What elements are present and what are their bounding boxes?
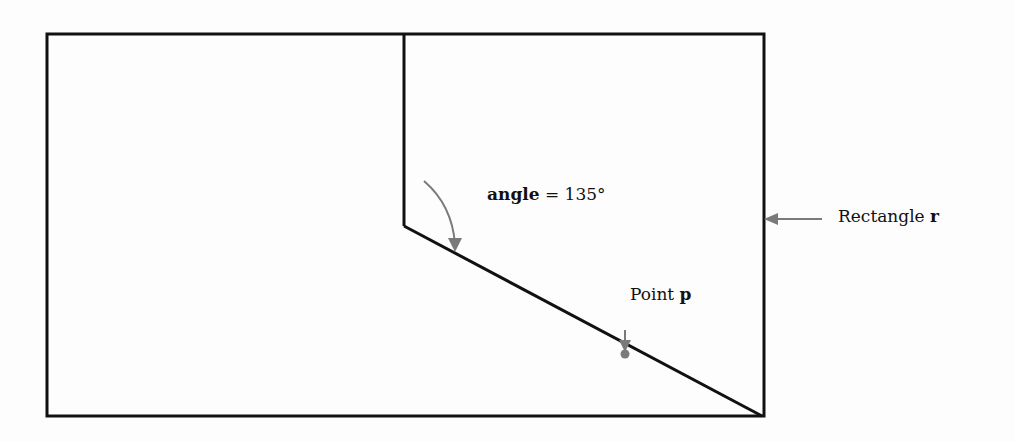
diagonal-line	[404, 226, 762, 416]
point-p-label-text: Point	[630, 284, 680, 304]
rectangle-r-label-var: r	[930, 206, 939, 226]
point-p-dot	[621, 350, 630, 359]
angle-label-value: = 135°	[540, 184, 606, 204]
rectangle-r-arrowhead-icon	[764, 213, 778, 225]
rectangle-r-label: Rectangle r	[838, 208, 939, 225]
point-p-label: Point p	[630, 286, 692, 303]
rectangle-r-label-text: Rectangle	[838, 206, 930, 226]
angle-label: angle = 135°	[487, 186, 606, 203]
point-p-label-var: p	[680, 284, 692, 304]
angle-arc-arrow	[424, 181, 455, 244]
angle-label-var: angle	[487, 184, 540, 204]
